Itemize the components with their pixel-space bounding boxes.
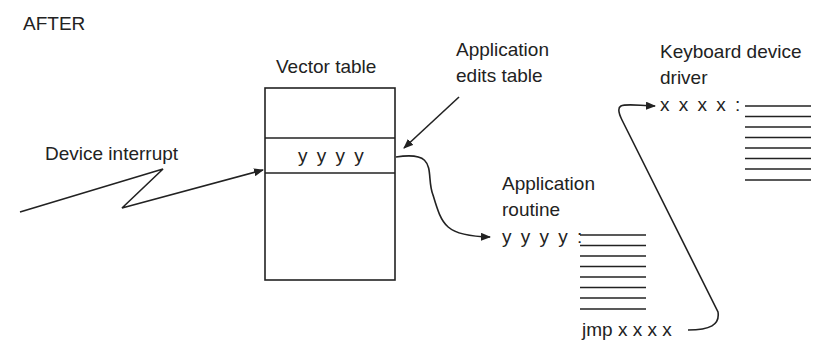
app-edits-line1: Application <box>456 38 549 61</box>
edits-table-arrow <box>404 97 459 148</box>
vector-to-routine-arrow <box>396 156 490 237</box>
keyboard-driver-code-lines <box>745 106 811 180</box>
jmp-instruction: jmp x x x x <box>582 318 672 341</box>
keyboard-driver-entry: x x x x : <box>660 94 742 116</box>
jmp-to-driver-arrow <box>619 105 719 330</box>
app-edits-line2: edits table <box>456 64 543 87</box>
app-routine-line1: Application <box>502 172 595 195</box>
app-routine-code-lines <box>580 235 646 309</box>
vector-table-box <box>265 88 395 280</box>
heading: AFTER <box>23 12 85 35</box>
app-routine-line2: routine <box>502 198 560 221</box>
interrupt-bolt-arrow <box>20 169 263 212</box>
keyboard-driver-line2: driver <box>660 66 708 89</box>
vector-table-entry: y y y y <box>298 145 366 167</box>
vector-table-label: Vector table <box>276 55 376 78</box>
app-routine-entry: y y y y : <box>502 226 584 248</box>
device-interrupt-label: Device interrupt <box>45 142 178 165</box>
keyboard-driver-line1: Keyboard device <box>660 40 802 63</box>
